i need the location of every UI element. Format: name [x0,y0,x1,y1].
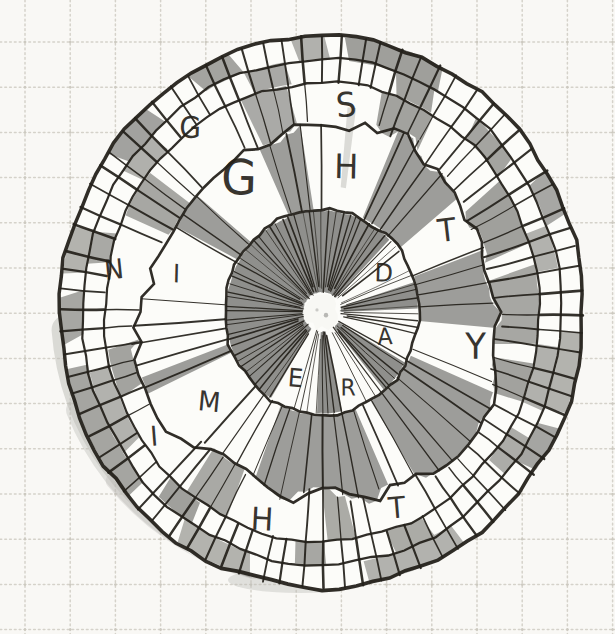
parachute-sketch: DAREMIGHTYTHINGS [0,0,615,634]
letter-THINGS-3: N [103,252,126,286]
letter-MIGHTY-1: I [173,259,181,289]
letter-THINGS-4: G [179,110,202,146]
letter-MIGHTY-2: G [221,149,258,207]
letter-THINGS-5: S [334,84,358,126]
letter-DARE-2: R [340,374,356,401]
letter-DARE-0: D [374,258,393,288]
letter-MIGHTY-0: M [197,385,222,419]
letter-THINGS-0: T [386,489,407,526]
letter-DARE-3: E [287,363,304,394]
letter-MIGHTY-5: Y [464,326,486,367]
canopy: DAREMIGHTYTHINGS [59,35,583,591]
letter-MIGHTY-3: H [334,146,359,187]
sketch-page: DAREMIGHTYTHINGS [0,0,615,634]
letter-DARE-1: A [377,322,394,349]
letter-THINGS-1: H [250,500,274,538]
